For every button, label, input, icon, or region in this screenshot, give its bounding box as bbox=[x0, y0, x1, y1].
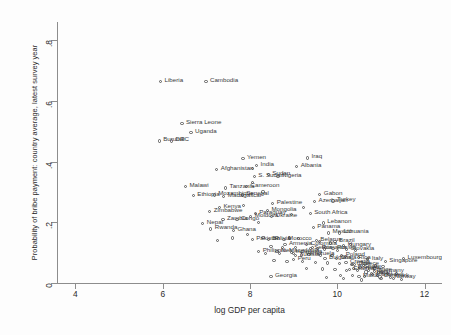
point-marker bbox=[189, 131, 192, 134]
point-marker bbox=[201, 222, 204, 225]
point-marker bbox=[216, 239, 219, 242]
point-label: Congo bbox=[241, 215, 259, 221]
point-marker bbox=[272, 259, 275, 262]
point-marker bbox=[170, 139, 173, 142]
y-tick-label-wrap: .8 bbox=[0, 40, 49, 41]
point-label: Malawi bbox=[189, 182, 208, 188]
point-label: Ukraine bbox=[276, 212, 297, 218]
point-marker bbox=[357, 275, 360, 278]
x-axis-title: log GDP per capita bbox=[57, 305, 442, 315]
scatter-plot-figure: Probability of bribe payment: country av… bbox=[0, 0, 451, 335]
point-marker bbox=[323, 257, 326, 260]
y-tick-label-wrap: .4 bbox=[0, 162, 49, 163]
point-marker bbox=[269, 275, 272, 278]
point-label: Nigeria bbox=[282, 172, 302, 178]
point-marker bbox=[326, 261, 329, 264]
point-marker bbox=[325, 276, 328, 279]
point-marker bbox=[192, 194, 195, 197]
point-marker bbox=[321, 267, 324, 270]
point-marker bbox=[209, 227, 212, 230]
point-marker bbox=[313, 200, 316, 203]
y-tick-label: .8 bbox=[44, 40, 54, 47]
point-marker bbox=[306, 156, 309, 159]
point-label: Luxembourg bbox=[408, 254, 442, 260]
x-tick-label: 8 bbox=[248, 289, 253, 299]
y-tick-label-wrap: .2 bbox=[0, 222, 49, 223]
point-label: DRC bbox=[175, 136, 188, 142]
point-label: Ghana bbox=[237, 226, 256, 232]
point-label: Iraq bbox=[312, 153, 323, 159]
point-marker bbox=[295, 165, 298, 168]
point-label: Norway bbox=[395, 273, 416, 279]
point-marker bbox=[342, 277, 345, 280]
point-marker bbox=[246, 233, 249, 236]
point-label: Philippines bbox=[263, 247, 293, 253]
point-marker bbox=[333, 268, 336, 271]
point-marker bbox=[312, 226, 315, 229]
point-marker bbox=[302, 206, 305, 209]
point-marker bbox=[232, 229, 235, 232]
point-marker bbox=[384, 260, 387, 263]
point-marker bbox=[305, 267, 308, 270]
point-label: Zimbabwe bbox=[214, 207, 243, 213]
point-marker bbox=[213, 193, 216, 196]
point-marker bbox=[338, 262, 341, 265]
point-marker bbox=[241, 157, 244, 160]
point-label: Ethiopia bbox=[197, 191, 219, 197]
point-label: Peru bbox=[298, 255, 311, 261]
point-label: Albania bbox=[301, 162, 322, 168]
point-marker bbox=[204, 80, 207, 83]
point-label: Madagascar bbox=[228, 192, 262, 198]
point-marker bbox=[255, 164, 258, 167]
x-tick-label: 10 bbox=[333, 289, 342, 299]
point-marker bbox=[285, 260, 288, 263]
point-label: Uganda bbox=[195, 128, 217, 134]
y-axis-title: Probability of bribe payment: country av… bbox=[30, 23, 39, 283]
point-label: S. Sudan bbox=[258, 172, 283, 178]
point-label: Afghanistan bbox=[221, 165, 254, 171]
y-tick-label: 0 bbox=[44, 283, 54, 288]
y-tick-label-wrap: 0 bbox=[0, 283, 49, 284]
x-tick-label: 4 bbox=[73, 289, 78, 299]
point-marker bbox=[331, 199, 334, 202]
point-marker bbox=[276, 175, 279, 178]
point-label: South Africa bbox=[314, 209, 347, 215]
point-label: Estonia bbox=[353, 265, 374, 271]
point-marker bbox=[314, 261, 317, 264]
point-label: Malta bbox=[363, 272, 378, 278]
point-label: Lithuania bbox=[343, 228, 368, 234]
point-marker bbox=[292, 258, 295, 261]
y-tick-label-wrap: .6 bbox=[0, 101, 49, 102]
point-label: Italy bbox=[372, 255, 383, 261]
point-marker bbox=[158, 139, 161, 142]
point-marker bbox=[159, 80, 162, 83]
x-tick-label: 12 bbox=[420, 289, 429, 299]
y-tick-label: .6 bbox=[44, 101, 54, 108]
point-marker bbox=[378, 275, 381, 278]
x-tick-label: 6 bbox=[160, 289, 165, 299]
point-marker bbox=[184, 185, 187, 188]
point-marker bbox=[344, 261, 347, 264]
point-label: Georgia bbox=[275, 272, 297, 278]
point-marker bbox=[215, 168, 218, 171]
point-marker bbox=[208, 210, 211, 213]
point-label: Turkey bbox=[337, 196, 356, 202]
point-marker bbox=[253, 175, 256, 178]
point-marker bbox=[257, 250, 260, 253]
point-marker bbox=[348, 268, 351, 271]
point-label: Cameroon bbox=[251, 182, 280, 188]
point-marker bbox=[251, 238, 254, 241]
point-label: India bbox=[261, 161, 274, 167]
point-marker bbox=[351, 274, 354, 277]
point-label: Liberia bbox=[165, 77, 184, 83]
point-marker bbox=[309, 212, 312, 215]
point-marker bbox=[231, 236, 234, 239]
point-marker bbox=[360, 278, 363, 281]
y-tick-label: .2 bbox=[44, 222, 54, 229]
point-marker bbox=[335, 257, 338, 260]
y-tick-label: .4 bbox=[44, 162, 54, 169]
plot-area: LiberiaCambodiaSierra LeoneUgandaBurundi… bbox=[58, 22, 442, 283]
point-marker bbox=[222, 195, 225, 198]
point-label: Cambodia bbox=[210, 77, 238, 83]
point-marker bbox=[180, 122, 183, 125]
